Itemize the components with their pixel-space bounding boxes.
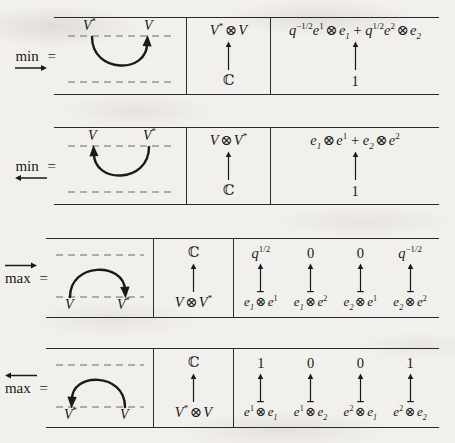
diagram-label-right: V <box>120 407 129 422</box>
formula-cell-min-left: e1⊗e1 + e2⊗e2 1 <box>270 128 439 204</box>
space-cell-max-left: ℂ V*⊗V <box>153 349 233 427</box>
map-source: e2⊗e1 <box>344 405 378 419</box>
formula-bottom-term: 1 <box>351 183 358 200</box>
map-value: 1 <box>407 356 414 371</box>
arrow-left-icon <box>14 174 48 183</box>
space-cell-min-left: V⊗V* ℂ <box>186 128 270 204</box>
basis-map: q−1/2 e2⊗e2 <box>393 246 427 310</box>
operator-label-max-right: max = <box>0 271 48 286</box>
row-max-left: max = V* <box>46 348 439 428</box>
maps-cell-max-left: 1 e1⊗e1 0 <box>233 349 439 427</box>
cup-diagram-svg <box>54 128 186 206</box>
space-vertical-map: ℂ V⊗V* <box>175 243 212 312</box>
arrow-up-icon <box>256 373 265 403</box>
space-bottom-term: ℂ <box>223 183 235 198</box>
space-cell-min-right: V*⊗V ℂ <box>186 18 270 94</box>
map-source: e2⊗e1 <box>344 295 378 309</box>
arrow-up-icon <box>224 151 233 181</box>
map-source: e1⊗e1 <box>244 405 278 419</box>
diagram-label-right: V <box>144 18 153 33</box>
space-top-term: V⊗V* <box>210 133 247 149</box>
cap-diagram-svg <box>46 349 153 429</box>
diagram-label-left: V* <box>64 407 77 422</box>
arrow-up-icon <box>189 263 198 293</box>
map-source: e2⊗e2 <box>393 295 427 309</box>
operator-text: max <box>5 380 31 396</box>
diagram-label-left: V <box>88 128 97 143</box>
basis-map-grid: q1/2 e1⊗e1 0 <box>234 244 439 312</box>
space-bottom-term: V*⊗V <box>175 405 212 421</box>
basis-map: q1/2 e1⊗e1 <box>244 246 278 310</box>
arrow-up-icon <box>306 373 315 403</box>
map-value: 0 <box>307 246 314 261</box>
map-value: 0 <box>357 356 364 371</box>
diagram-label-right: V* <box>117 297 130 312</box>
operator-label-min-left: min = <box>0 159 56 174</box>
arrow-up-icon <box>406 263 415 293</box>
space-top-term: ℂ <box>188 355 200 370</box>
cap-diagram-left: V* V <box>46 349 153 427</box>
diagram-label-right: V* <box>143 128 156 143</box>
basis-map: 0 e2⊗e1 <box>344 356 378 420</box>
map-value: 0 <box>357 246 364 261</box>
space-bottom-term: V⊗V* <box>175 295 212 311</box>
formula-top-term: q−1/2e1⊗e1 + q1/2e2⊗e2 <box>289 23 421 39</box>
operator-label-max-left: max = <box>0 381 48 396</box>
operator-text: max <box>5 270 31 286</box>
diagram-label-left: V <box>65 297 74 312</box>
space-vertical-map: V⊗V* ℂ <box>210 131 247 200</box>
map-value: q1/2 <box>252 246 271 261</box>
operator-word: max <box>4 381 32 396</box>
row-min-left: min = V <box>54 127 439 205</box>
space-cell-max-right: ℂ V⊗V* <box>153 239 233 317</box>
arrow-up-icon <box>256 263 265 293</box>
arrow-up-icon <box>306 263 315 293</box>
arrow-right-icon <box>14 64 48 73</box>
space-top-term: ℂ <box>188 245 200 260</box>
figure-sheet: min = V* <box>0 0 455 443</box>
operator-text: min <box>15 158 38 174</box>
arrow-up-icon <box>351 41 360 71</box>
basis-map-grid: 1 e1⊗e1 0 <box>234 354 439 422</box>
cap-diagram-right: V V* <box>46 239 153 317</box>
space-vertical-map: ℂ V*⊗V <box>175 353 212 422</box>
diagram-cell-max-right: V V* <box>46 239 153 317</box>
maps-cell-max-right: q1/2 e1⊗e1 0 <box>233 239 439 317</box>
basis-map: 0 e2⊗e1 <box>344 246 378 310</box>
diagram-cell-min-left: V V* <box>54 128 186 204</box>
arrow-up-icon <box>406 373 415 403</box>
space-vertical-map: V*⊗V ℂ <box>210 21 247 90</box>
space-bottom-term: ℂ <box>223 73 235 88</box>
basis-map: 1 e2⊗e2 <box>393 356 427 420</box>
cap-diagram-svg <box>46 239 153 319</box>
arrow-up-icon <box>356 373 365 403</box>
diagram-label-left: V* <box>83 18 96 33</box>
formula-cell-min-right: q−1/2e1⊗e1 + q1/2e2⊗e2 1 <box>270 18 439 94</box>
map-value: 1 <box>257 356 264 371</box>
map-value: q−1/2 <box>398 246 422 261</box>
arrow-up-icon <box>224 41 233 71</box>
diagram-cell-max-left: V* V <box>46 349 153 427</box>
operator-text: min <box>15 48 38 64</box>
map-source: e1⊗e2 <box>294 295 328 309</box>
diagram-cell-min-right: V* V <box>54 18 186 94</box>
cup-diagram-right: V* V <box>54 18 186 94</box>
map-source: e1⊗e2 <box>294 405 328 419</box>
basis-map: 0 e1⊗e2 <box>294 356 328 420</box>
space-top-term: V*⊗V <box>210 23 247 39</box>
operator-word: max <box>4 271 32 286</box>
arrow-up-icon <box>356 263 365 293</box>
arrow-left-icon <box>4 371 38 380</box>
arrow-up-icon <box>351 151 360 181</box>
basis-map: 1 e1⊗e1 <box>244 356 278 420</box>
formula-vertical-map: q−1/2e1⊗e1 + q1/2e2⊗e2 1 <box>271 20 439 92</box>
formula-top-term: e1⊗e1 + e2⊗e2 <box>310 133 400 149</box>
cup-diagram-left: V V* <box>54 128 186 204</box>
formula-bottom-term: 1 <box>351 73 358 90</box>
formula-vertical-map: e1⊗e1 + e2⊗e2 1 <box>271 130 439 202</box>
map-source: e1⊗e1 <box>244 295 278 309</box>
map-source: e2⊗e2 <box>393 405 427 419</box>
basis-map: 0 e1⊗e2 <box>294 246 328 310</box>
arrow-right-icon <box>4 261 38 270</box>
operator-word: min <box>14 49 39 64</box>
